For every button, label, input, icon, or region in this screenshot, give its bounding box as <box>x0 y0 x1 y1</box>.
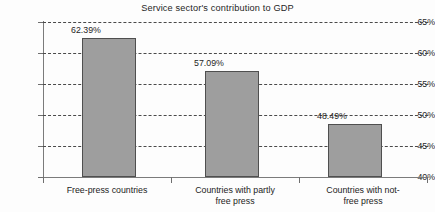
bar-value-label-2: 48.49% <box>298 111 366 121</box>
x-category-label-2-line-1: free press <box>301 196 425 207</box>
x-category-label-1-line-0: Countries with partly <box>173 185 297 196</box>
x-category-label-1-line-1: free press <box>173 196 297 207</box>
bar-chart: Service sector's contribution to GDP 65%… <box>0 0 435 212</box>
x-tick-mark-0 <box>43 177 44 183</box>
bar-value-label-1: 57.09% <box>175 58 243 68</box>
x-axis-line <box>43 177 428 178</box>
x-tick-mark-1 <box>171 177 172 183</box>
x-category-label-2: Countries with not- free press <box>301 185 425 206</box>
gridline-65 <box>43 22 428 23</box>
x-category-label-0-line-0: Free-press countries <box>45 185 169 196</box>
plot-area <box>43 22 428 177</box>
bar-countries-with-partly-free-press[interactable] <box>205 71 259 177</box>
x-category-label-2-line-0: Countries with not- <box>301 185 425 196</box>
x-tick-mark-3 <box>427 177 428 183</box>
x-category-label-1: Countries with partly free press <box>173 185 297 206</box>
bar-value-label-0: 62.39% <box>52 25 120 35</box>
bar-countries-with-not-free-press[interactable] <box>328 124 382 177</box>
chart-title: Service sector's contribution to GDP <box>0 3 435 13</box>
bar-free-press-countries[interactable] <box>82 38 136 177</box>
x-tick-mark-2 <box>299 177 300 183</box>
x-category-label-0: Free-press countries <box>45 185 169 196</box>
